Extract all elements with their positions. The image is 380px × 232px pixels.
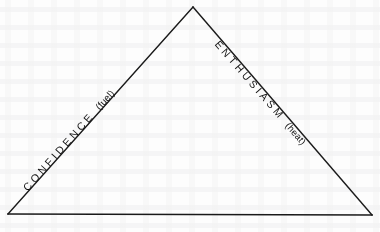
diagram-canvas: CONFIDENCE(fuel) ENTHUSIASM(heat) [0, 0, 380, 232]
triangle-base-edge [8, 214, 372, 215]
triangle-figure [0, 0, 380, 232]
